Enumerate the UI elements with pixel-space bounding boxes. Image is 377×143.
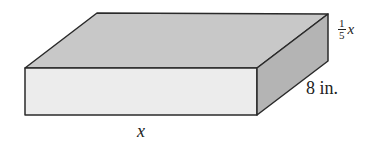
depth-label: 8 in.	[306, 78, 338, 99]
front-face	[25, 68, 257, 115]
length-label: x	[137, 121, 145, 142]
height-fraction: 1 5	[338, 18, 346, 41]
prism-figure	[0, 0, 377, 143]
height-variable: x	[348, 21, 355, 38]
height-label: 1 5 x	[338, 18, 354, 41]
fraction-denominator: 5	[339, 30, 345, 41]
